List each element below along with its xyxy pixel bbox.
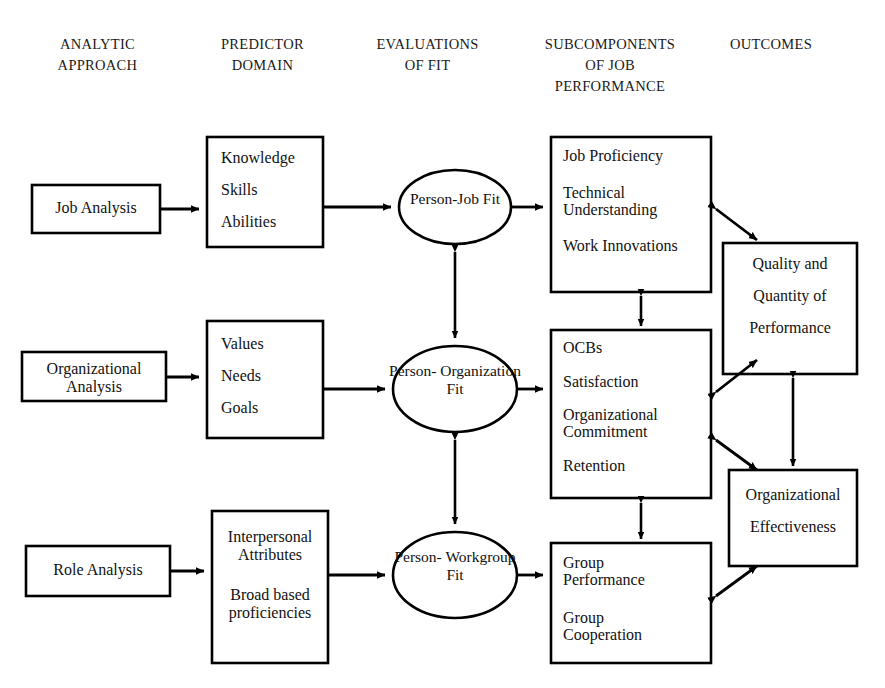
ellipse-person-workgroup-fit: [393, 532, 517, 618]
box-values-needs-goals: [207, 321, 323, 438]
connector-group-performance-to-organizational-effectiveness: [716, 566, 757, 596]
figure-canvas: ANALYTIC APPROACH PREDICTOR DOMAIN EVALU…: [0, 0, 885, 688]
box-ocbs-group: [551, 330, 711, 498]
box-group-performance-group: [551, 543, 711, 663]
connector-job-proficiency-to-quality-quantity: [716, 209, 757, 240]
box-organizational-effectiveness: [729, 470, 857, 566]
ellipse-person-organization-fit: [393, 346, 517, 432]
box-job-analysis: [32, 185, 160, 233]
box-organizational-analysis: [22, 352, 166, 401]
connector-ocbs-to-organizational-effectiveness: [716, 440, 757, 470]
box-job-proficiency-group: [551, 137, 711, 292]
box-quality-quantity-performance: [723, 243, 857, 374]
box-interpersonal-attributes: [212, 511, 328, 663]
box-knowledge-skills-abilities: [207, 137, 323, 247]
ellipse-person-job-fit: [399, 170, 511, 244]
box-role-analysis: [26, 546, 170, 596]
diagram-shapes-layer: [0, 0, 885, 688]
